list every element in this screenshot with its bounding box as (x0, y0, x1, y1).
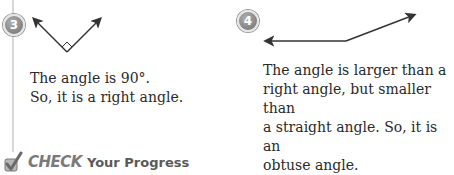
check-your-progress-heading: CHECK Your Progress (2, 150, 189, 174)
obtuse-angle-figure (262, 8, 422, 48)
text-line: So, it is a right angle. (30, 88, 183, 107)
checkmark-icon (2, 151, 24, 173)
text-line: obtuse angle. (263, 156, 454, 175)
text-line: The angle is 90°. (30, 69, 183, 88)
example-4-explanation: The angle is larger than a right angle, … (263, 61, 454, 175)
example-number-badge: 3 (3, 14, 25, 36)
text-line: right angle, but smaller than (263, 80, 454, 118)
example-number-badge: 4 (237, 10, 259, 32)
check-label: CHECK (28, 153, 82, 171)
example-3-explanation: The angle is 90°. So, it is a right angl… (30, 69, 183, 107)
text-line: The angle is larger than a (263, 61, 454, 80)
progress-label: Your Progress (87, 155, 189, 170)
text-line: a straight angle. So, it is an (263, 118, 454, 156)
right-angle-figure (30, 12, 110, 62)
